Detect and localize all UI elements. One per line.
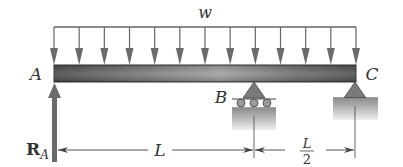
beam xyxy=(54,65,356,82)
arrow-down-icon xyxy=(176,48,184,65)
arrow-down-icon xyxy=(251,48,259,65)
arrow-down-icon xyxy=(126,48,134,65)
point-label-b: B xyxy=(214,87,228,107)
load-arrows xyxy=(50,27,360,65)
reaction-label: RA xyxy=(26,139,49,162)
point-label-a: A xyxy=(28,64,42,84)
support-triangle-icon xyxy=(344,82,366,98)
arrow-down-icon xyxy=(226,48,234,65)
dimension-label-l-half-num: L xyxy=(302,136,312,151)
dimension-label-l: L xyxy=(153,140,165,160)
support-triangle-icon xyxy=(243,82,265,98)
load-label-w: w xyxy=(198,3,212,22)
dimension-ab: L xyxy=(58,140,253,160)
pin-support-c xyxy=(333,82,378,158)
roller-support-b xyxy=(232,82,276,158)
point-label-c: C xyxy=(365,64,378,84)
arrow-up-icon xyxy=(48,83,61,98)
arrow-down-icon xyxy=(201,48,209,65)
roller-icon xyxy=(237,99,245,107)
ground-hatch xyxy=(333,98,378,120)
beam-diagram: w A C B RA L xyxy=(0,0,403,167)
arrow-down-icon xyxy=(50,48,58,65)
reaction-force-ra: RA xyxy=(26,83,61,162)
arrow-down-icon xyxy=(75,48,83,65)
dimension-bc: L 2 xyxy=(255,136,354,167)
roller-icon xyxy=(263,99,271,107)
arrow-down-icon xyxy=(277,48,285,65)
arrow-down-icon xyxy=(100,48,108,65)
distributed-load: w xyxy=(50,3,360,65)
arrow-down-icon xyxy=(151,48,159,65)
dimension-label-l-half-den: 2 xyxy=(303,152,311,167)
arrow-down-icon xyxy=(327,48,335,65)
arrow-down-icon xyxy=(352,48,360,65)
arrow-down-icon xyxy=(302,48,310,65)
roller-icon xyxy=(250,99,258,107)
